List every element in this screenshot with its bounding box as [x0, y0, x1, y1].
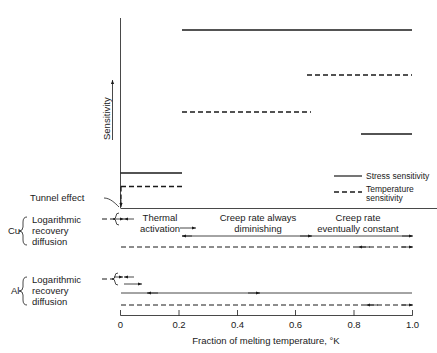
brace-al-icon: [19, 277, 27, 305]
y-axis-label: Sensitivity: [101, 97, 112, 140]
mechanism-cu-logarithmic: Logarithmic: [32, 214, 81, 225]
x-axis-label: Fraction of melting temperature, °K: [192, 335, 340, 346]
material-label-al: Al: [11, 285, 19, 296]
x-tick-label-0: 0: [118, 319, 123, 330]
x-axis-tick-labels: 0 0.2 0.4 0.6 0.8 1.0: [118, 319, 419, 330]
region-label-creep-diminishing-line1: Creep rate always: [220, 212, 297, 223]
region-labels: Thermal activation Creep rate always dim…: [140, 212, 399, 234]
x-tick-label-1: 0.2: [172, 319, 185, 330]
legend-label-stress: Stress sensitivity: [366, 171, 430, 181]
y-axis: Sensitivity: [101, 18, 121, 208]
x-tick-label-2: 0.4: [231, 319, 244, 330]
material-block-al: Al Logarithmic recovery diffusion: [11, 273, 413, 307]
region-label-thermal-line2: activation: [140, 223, 180, 234]
mechanism-al-logarithmic: Logarithmic: [32, 274, 81, 285]
x-axis-ticks: [121, 310, 413, 316]
series-stress-sensitivity: [121, 30, 413, 173]
material-label-cu: Cu: [8, 225, 20, 236]
x-axis: 0 0.2 0.4 0.6 0.8 1.0 Fraction of meltin…: [118, 310, 419, 346]
mechanism-al-recovery: recovery: [32, 285, 69, 296]
mechanism-cu-diffusion: diffusion: [32, 236, 67, 247]
tunnel-effect-annotation: Tunnel effect: [30, 192, 119, 207]
legend-label-temperature-line2: sensitivity: [366, 193, 404, 203]
region-label-creep-constant-line2: eventually constant: [317, 223, 399, 234]
tunnel-effect-label: Tunnel effect: [30, 192, 85, 203]
mechanism-cu-recovery: recovery: [32, 225, 69, 236]
region-label-creep-diminishing-line2: diminishing: [234, 223, 282, 234]
brace-cu-icon: [19, 217, 27, 245]
x-tick-label-3: 0.6: [289, 319, 302, 330]
figure-container: Sensitivity Stress sensitivity Temperatu…: [0, 0, 437, 353]
region-label-creep-constant-line1: Creep rate: [336, 212, 381, 223]
x-tick-label-4: 0.8: [347, 319, 360, 330]
legend: Stress sensitivity Temperature sensitivi…: [334, 171, 430, 203]
creep-mechanism-figure: Sensitivity Stress sensitivity Temperatu…: [0, 0, 437, 353]
al-logarithmic-brace-icon: [112, 273, 118, 285]
tunnel-effect-leader: [104, 198, 119, 207]
region-label-thermal-line1: Thermal: [143, 212, 178, 223]
mechanism-al-diffusion: diffusion: [32, 296, 67, 307]
x-tick-label-5: 1.0: [406, 319, 419, 330]
